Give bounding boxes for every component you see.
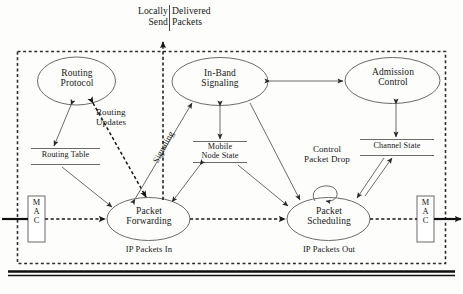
mac-label-right: M A C bbox=[417, 199, 434, 225]
qos-architecture-diagram: Locally Send Delivered Packets Routing P… bbox=[0, 0, 463, 294]
edge-label-routing-updates: Routing Updates bbox=[96, 108, 158, 127]
datastore-label-channel-state: Channel State bbox=[358, 142, 436, 151]
node-label-packet-scheduling: Packet Scheduling bbox=[287, 206, 371, 227]
node-label-routing-protocol: Routing Protocol bbox=[36, 68, 118, 89]
label-ip-packets-out: IP Packets Out bbox=[286, 245, 372, 254]
label-locally-send: Locally Send bbox=[98, 6, 168, 27]
edge-routing-protocol-routing-table bbox=[54, 105, 71, 146]
node-label-packet-forwarding: Packet Forwarding bbox=[107, 206, 191, 227]
edge-label-control-packet-drop: Control Packet Drop bbox=[286, 145, 368, 164]
node-label-in-band-signaling: In-Band Signaling bbox=[178, 68, 262, 89]
label-delivered-packets: Delivered Packets bbox=[172, 6, 262, 27]
edge-mobile-node-state-packet-forwarding bbox=[172, 165, 200, 202]
label-ip-packets-in: IP Packets In bbox=[108, 245, 190, 254]
datastore-label-routing-table: Routing Table bbox=[29, 151, 102, 160]
mac-label-left: M A C bbox=[28, 199, 45, 225]
edge-control-packet-drop-loop bbox=[313, 186, 337, 201]
label-divider bbox=[169, 5, 170, 31]
datastore-label-mobile-node-state: Mobile Node State bbox=[191, 143, 249, 161]
edge-routing-table-to-packet-forwarding bbox=[62, 167, 112, 207]
edge-packet-scheduling-channel-state-out bbox=[365, 158, 392, 196]
node-label-admission-control: Admission Control bbox=[350, 67, 436, 88]
wireless-medium-line bbox=[8, 272, 455, 276]
edge-mobile-node-state-packet-scheduling bbox=[238, 165, 288, 206]
